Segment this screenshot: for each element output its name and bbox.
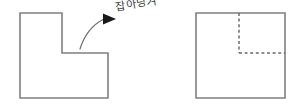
right-square-outline (196, 13, 285, 98)
pull-arrow-head-icon (103, 14, 116, 25)
diagram-canvas: 잡아당겨 (0, 0, 301, 109)
diagram-figure-svg (0, 0, 301, 109)
pull-arrow-curve (80, 19, 104, 49)
